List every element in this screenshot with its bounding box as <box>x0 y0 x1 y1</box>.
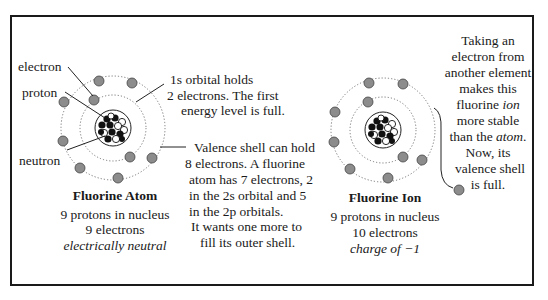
neutron-label: neutron <box>19 153 60 169</box>
electron-label: electron <box>18 59 61 75</box>
atom-charge: electrically neutral <box>50 238 180 254</box>
ion-note-line10: is full. <box>438 177 538 193</box>
ion-charge: charge of −1 <box>320 241 450 257</box>
ion-electrons: 10 electrons <box>320 225 450 241</box>
ion-title: Fluorine Ion <box>330 190 440 206</box>
ion-note-line4: makes this <box>438 81 538 97</box>
valence-note-line6: It wants one more to <box>191 219 302 235</box>
ion-note-line9: valence shell <box>440 161 540 177</box>
ion-note-line3: another element <box>438 65 538 81</box>
valence-note-line1: Valence shell can hold <box>194 140 315 156</box>
fluorine-atom <box>58 67 186 183</box>
proton-label: proton <box>22 85 57 101</box>
ion-note-line1: Taking an <box>438 33 538 49</box>
atom-electrons: 9 electrons <box>50 222 180 238</box>
valence-note-line3: atom has 7 electrons, 2 <box>189 172 313 188</box>
orbital-1s-note-line1: 1s orbital holds <box>170 72 253 88</box>
orbital-1s-note-line2: 2 electrons. The first <box>167 88 278 104</box>
valence-note-line2: 8 electrons. A fluorine <box>185 156 305 172</box>
orbital-1s-note-line3: energy level is full. <box>181 103 285 119</box>
valence-note-line7: fill its outer shell. <box>200 235 295 251</box>
atom-protons: 9 protons in nucleus <box>50 207 180 223</box>
atom-title: Fluorine Atom <box>55 188 175 204</box>
ion-note-line2: electron from <box>438 49 538 65</box>
valence-note-line5: in the 2p orbitals. <box>189 204 284 220</box>
ion-note-line6: more stable <box>438 113 538 129</box>
ion-protons: 9 protons in nucleus <box>320 209 450 225</box>
ion-note-line5: fluorine ion <box>438 97 538 113</box>
ion-note-line7: than the atom. <box>438 129 538 145</box>
valence-note-line4: in the 2s orbital and 5 <box>189 188 306 204</box>
ion-note-line8: Now, its <box>438 145 538 161</box>
